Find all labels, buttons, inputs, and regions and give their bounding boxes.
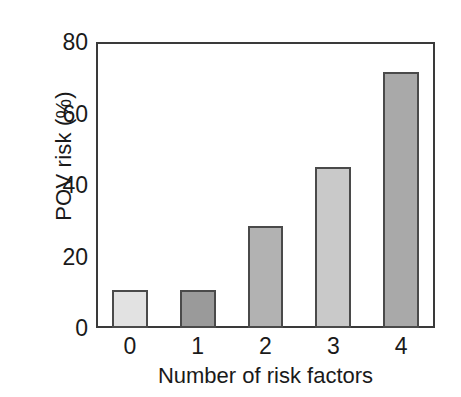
x-axis-title: Number of risk factors [96, 363, 435, 389]
y-tick-label: 40 [42, 174, 88, 197]
bars-layer [96, 42, 435, 328]
x-tick-label: 1 [178, 334, 218, 359]
chart-figure: POV risk (%) 0 20 40 60 80 0 1 2 3 4 Num… [0, 0, 461, 397]
bar-category-1 [180, 290, 216, 328]
bar-category-0 [112, 290, 148, 328]
x-tick-label: 2 [246, 334, 286, 359]
y-tick-label: 60 [42, 102, 88, 125]
bar-category-2 [248, 226, 284, 328]
y-tick-label: 0 [42, 317, 88, 340]
bar-category-4 [383, 72, 419, 328]
y-axis-tick-labels: 0 20 40 60 80 [34, 0, 88, 397]
x-tick-label: 4 [381, 334, 421, 359]
x-tick-label: 0 [110, 334, 150, 359]
x-tick-label: 3 [313, 334, 353, 359]
x-axis-tick-labels: 0 1 2 3 4 [96, 334, 435, 366]
bar-category-3 [315, 167, 351, 328]
y-tick-label: 20 [42, 245, 88, 268]
y-tick-label: 80 [42, 31, 88, 54]
